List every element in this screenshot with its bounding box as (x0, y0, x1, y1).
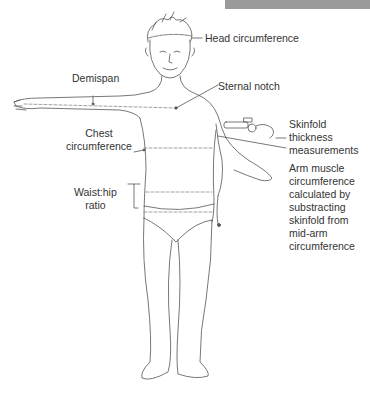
label-arm-muscle-circumference: Arm muscle circumference calculated by s… (289, 162, 355, 253)
label-demispan: Demispan (72, 72, 119, 85)
pointer-lines (92, 38, 286, 208)
legs (142, 218, 212, 379)
label-chest-circumference: Chest circumference (66, 127, 132, 153)
torso (14, 76, 272, 242)
label-waist-hip-ratio: Waist:hip ratio (74, 186, 117, 212)
demispan-line (24, 104, 176, 108)
label-skinfold-thickness: Skinfold thickness measurements (289, 118, 358, 157)
label-head-circumference: Head circumference (205, 32, 299, 45)
label-sternal-notch: Sternal notch (218, 80, 280, 93)
head (145, 12, 194, 78)
